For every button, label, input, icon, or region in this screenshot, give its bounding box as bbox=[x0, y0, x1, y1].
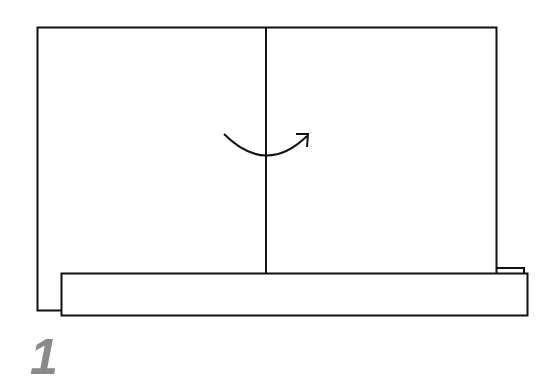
folding-diagram bbox=[0, 0, 557, 378]
step-number: 1 bbox=[30, 332, 58, 378]
bottom-strip bbox=[62, 274, 528, 316]
